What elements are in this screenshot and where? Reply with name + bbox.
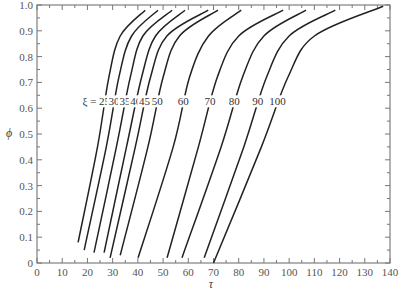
x-axis-label: τ: [209, 277, 214, 291]
x-tick-label: 130: [357, 266, 374, 278]
x-tick-label: 10: [57, 266, 69, 278]
x-tick-label: 90: [258, 266, 270, 278]
y-tick-label: 0.1: [19, 231, 33, 243]
y-tick-label: 0.3: [19, 180, 33, 192]
y-tick-label: 0.2: [19, 205, 33, 217]
curve-label-xi-45: 45: [139, 95, 151, 107]
chart: 0102030405060708090100110120130140 00.10…: [0, 0, 401, 293]
x-tick-label: 50: [158, 266, 170, 278]
curve-xi-100: [214, 6, 384, 263]
x-tick-label: 20: [82, 266, 94, 278]
x-tick-label: 60: [183, 266, 195, 278]
y-tick-label: 1.0: [19, 0, 33, 11]
y-tick-label: 0.8: [19, 51, 33, 63]
curve-xi-25: [78, 10, 145, 242]
x-tick-label: 140: [382, 266, 399, 278]
y-tick-label: 0: [28, 257, 34, 269]
curve-xi-50: [120, 10, 218, 255]
xi-prefix-label: ξ =: [83, 95, 97, 108]
x-tick-label: 80: [233, 266, 245, 278]
curve-labels: 25ξ = 303540455060708090100: [83, 95, 288, 108]
y-tick-label: 0.9: [19, 25, 33, 37]
x-tick-label: 40: [132, 266, 144, 278]
curve-xi-30: [84, 10, 158, 250]
x-tick-label: 0: [34, 266, 40, 278]
x-tick-label: 30: [107, 266, 119, 278]
curve-label-xi-60: 60: [178, 95, 190, 107]
y-axis-label: ϕ: [6, 126, 12, 140]
curve-label-xi-90: 90: [252, 95, 264, 107]
curve-label-xi-50: 50: [152, 95, 164, 107]
y-tick-label: 0.7: [19, 76, 33, 88]
x-tick-label: 110: [306, 266, 323, 278]
x-tick-label: 100: [281, 266, 298, 278]
curve-xi-90: [204, 10, 335, 258]
x-axis: 0102030405060708090100110120130140: [34, 5, 399, 278]
curves: [78, 6, 383, 263]
y-tick-label: 0.6: [19, 102, 33, 114]
curve-xi-45: [110, 10, 208, 258]
y-tick-label: 0.4: [19, 154, 33, 166]
y-tick-label: 0.5: [19, 128, 33, 140]
x-tick-label: 120: [331, 266, 348, 278]
curve-label-xi-70: 70: [204, 95, 216, 107]
curve-label-xi-100: 100: [269, 95, 286, 107]
curve-label-xi-80: 80: [229, 95, 241, 107]
